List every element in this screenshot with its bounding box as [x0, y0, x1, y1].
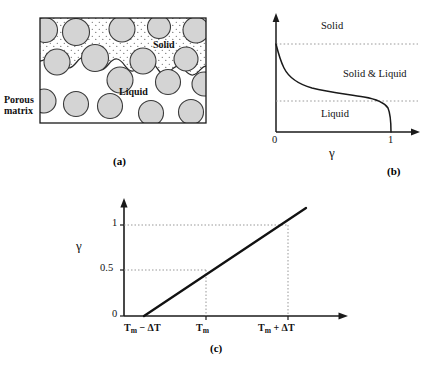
- y-tick-label-zero-c: 0: [112, 308, 117, 319]
- y-tick-label-half-c: 0.5: [100, 262, 113, 273]
- mushy-region-label-b: Solid & Liquid: [343, 68, 407, 79]
- y-axis-label-gamma-c: γ: [76, 238, 82, 254]
- panel-b-phase-diagram: Solid Solid & Liquid Liquid 0 1 γ (b): [228, 0, 431, 180]
- x-tick-label-tm-minus-dt: Tm − ΔT: [124, 322, 161, 333]
- caption-a: (a): [113, 155, 126, 167]
- x-axis-label-gamma-b: γ: [329, 145, 335, 161]
- liquid-fraction-line: [144, 208, 306, 316]
- solid-label-panel-a: Solid: [153, 40, 175, 51]
- panel-a-porous-matrix: Porous matrix Solid Liquid (a): [0, 0, 230, 178]
- x-tick-label-zero-b: 0: [272, 134, 277, 145]
- porous-matrix-label: Porous matrix: [2, 94, 36, 117]
- x-tick-label-one-b: 1: [388, 134, 393, 145]
- liquid-region-label-b: Liquid: [321, 108, 349, 119]
- caption-c: (c): [210, 342, 222, 354]
- x-tick-label-tm-plus-dt: Tm + ΔT: [258, 322, 295, 333]
- panel-c-liquid-fraction: 0 0.5 1 γ Tm − ΔT Tm Tm + ΔT (c): [40, 180, 431, 366]
- porous-matrix-drawing: [0, 0, 230, 150]
- x-tick-label-tm: Tm: [196, 322, 209, 333]
- caption-b: (b): [387, 165, 400, 177]
- solid-region-label-b: Solid: [321, 20, 343, 31]
- x-axis-arrow-b: [411, 129, 420, 136]
- x-axis-arrow-c: [339, 312, 349, 319]
- figure-root: Porous matrix Solid Liquid (a) Solid Sol…: [0, 0, 431, 366]
- y-axis-arrow-c: [120, 198, 127, 208]
- y-tick-label-one-c: 1: [112, 217, 117, 228]
- liquid-fraction-plot: [40, 180, 431, 340]
- y-axis-arrow-b: [273, 13, 280, 22]
- liquid-label-panel-a: Liquid: [119, 87, 148, 98]
